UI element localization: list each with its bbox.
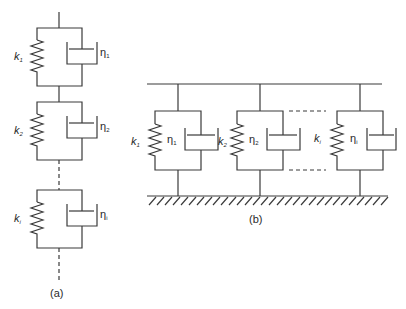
spring-icon: [31, 40, 82, 86]
spring-icon: [149, 124, 201, 170]
spring-icon: [331, 124, 383, 170]
spring-label-ki: ki: [14, 212, 22, 225]
spring-label-k1: k1: [14, 50, 23, 63]
series-unit-1: k1 η1: [14, 28, 110, 86]
dashpot-cylinder-icon: [367, 128, 396, 150]
frame-top: [37, 28, 82, 49]
frame-top: [337, 111, 383, 135]
dashpot-label-etai: ηi: [350, 132, 357, 145]
parallel-unit-i: ki ηi: [314, 84, 396, 196]
spring-label-k1: k1: [131, 135, 140, 148]
parallel-unit-2: k2 η2: [218, 84, 300, 196]
spring-icon: [231, 124, 283, 170]
dashpot-label-eta1: η1: [167, 133, 177, 146]
frame-top: [237, 111, 283, 135]
frame-top: [155, 111, 201, 135]
caption-b: (b): [249, 213, 262, 225]
series-unit-i: ki ηi: [14, 190, 107, 248]
panel-a: k1 η1 k2 η2 ki ηi (a): [14, 12, 110, 299]
dashpot-label-eta2: η2: [100, 120, 110, 133]
spring-label-ki: ki: [314, 132, 322, 145]
frame-top: [37, 102, 82, 123]
dashpot-label-eta2: η2: [249, 133, 259, 146]
spring-icon: [31, 202, 82, 248]
parallel-unit-1: k1 η1: [131, 84, 218, 196]
caption-a: (a): [50, 287, 63, 299]
dashpot-label-etai: ηi: [100, 208, 107, 221]
spring-icon: [31, 114, 82, 160]
fixed-ground-icon: [147, 196, 388, 205]
spring-label-k2: k2: [14, 124, 24, 137]
panel-b: k1 η1 k2 η2 ki ηi: [131, 84, 396, 225]
kelvin-voigt-diagram: k1 η1 k2 η2 ki ηi (a): [0, 0, 406, 309]
dashpot-label-eta1: η1: [100, 46, 110, 59]
series-unit-2: k2 η2: [14, 102, 110, 160]
frame-top: [37, 190, 82, 211]
spring-label-k2: k2: [218, 135, 228, 148]
